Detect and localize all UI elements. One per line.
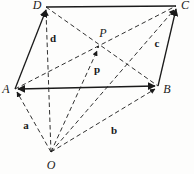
vertex-label-B: B — [163, 83, 170, 95]
vector-label-c: c — [155, 38, 160, 49]
diagonal-A-C — [15, 6, 176, 89]
edge-A-B — [18, 86, 155, 89]
vector-O-A — [17, 92, 51, 152]
vector-O-P — [51, 51, 97, 152]
point-P-marker — [97, 46, 99, 48]
vector-parallelogram-figure: A B C D O P a b c d p — [0, 0, 194, 174]
vertex-label-O: O — [47, 159, 56, 171]
vertex-label-C: C — [181, 0, 189, 11]
diagonal-D-B — [46, 7, 158, 86]
vertex-label-A: A — [2, 83, 9, 95]
vertex-label-D: D — [33, 0, 42, 11]
vector-label-p: p — [94, 64, 100, 75]
edge-B-C — [158, 9, 176, 86]
edge-D-C — [46, 6, 176, 7]
vector-label-a: a — [23, 120, 29, 131]
vector-O-B — [51, 89, 155, 152]
vector-label-d: d — [50, 33, 56, 44]
vertex-label-P: P — [99, 27, 106, 39]
vector-label-b: b — [111, 125, 117, 136]
edge-A-D — [15, 10, 46, 89]
